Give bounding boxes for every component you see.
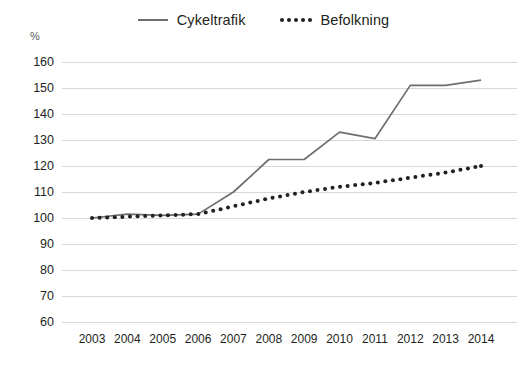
x-axis-tick-label: 2004 bbox=[114, 332, 141, 346]
legend-item-befolkning[interactable]: Befolkning bbox=[280, 12, 390, 28]
y-axis-tick-label: 130 bbox=[0, 133, 54, 147]
y-axis-tick-label: 110 bbox=[0, 185, 54, 199]
x-axis-tick-label: 2003 bbox=[79, 332, 106, 346]
y-axis-unit-label: % bbox=[30, 30, 40, 42]
series-layer bbox=[62, 62, 517, 322]
y-axis-tick-label: 100 bbox=[0, 211, 54, 225]
series-befolkning bbox=[90, 164, 483, 220]
x-axis-tick-label: 2014 bbox=[468, 332, 495, 346]
y-axis-tick-label: 70 bbox=[0, 289, 54, 303]
solid-line-icon bbox=[138, 19, 168, 21]
x-axis-tick-label: 2012 bbox=[397, 332, 424, 346]
y-axis-tick-label: 150 bbox=[0, 81, 54, 95]
x-axis-tick-label: 2005 bbox=[149, 332, 176, 346]
x-axis-tick-label: 2010 bbox=[326, 332, 353, 346]
x-axis-tick-label: 2006 bbox=[185, 332, 212, 346]
x-axis-tick-label: 2011 bbox=[362, 332, 388, 346]
y-axis-tick-label: 60 bbox=[0, 315, 54, 329]
chart-legend: Cykeltrafik Befolkning bbox=[0, 12, 527, 28]
plot-area bbox=[62, 62, 517, 322]
dotted-line-icon bbox=[280, 18, 312, 22]
y-axis-tick-label: 120 bbox=[0, 159, 54, 173]
legend-label-cykeltrafik: Cykeltrafik bbox=[177, 12, 246, 28]
y-axis-tick-label: 80 bbox=[0, 263, 54, 277]
x-axis-tick-label: 2007 bbox=[220, 332, 247, 346]
x-axis-tick-label: 2008 bbox=[255, 332, 282, 346]
x-axis-ticks: 2003200420052006200720082009201020112012… bbox=[62, 332, 517, 352]
x-axis-tick-label: 2009 bbox=[291, 332, 318, 346]
series-cykeltrafik bbox=[92, 80, 481, 218]
legend-label-befolkning: Befolkning bbox=[321, 12, 390, 28]
x-axis-tick-label: 2013 bbox=[432, 332, 459, 346]
y-axis-tick-label: 140 bbox=[0, 107, 54, 121]
y-axis-tick-label: 90 bbox=[0, 237, 54, 251]
line-chart: Cykeltrafik Befolkning % 160150140130120… bbox=[0, 0, 527, 369]
y-axis-tick-label: 160 bbox=[0, 55, 54, 69]
gridline bbox=[62, 322, 517, 323]
legend-item-cykeltrafik[interactable]: Cykeltrafik bbox=[138, 12, 246, 28]
